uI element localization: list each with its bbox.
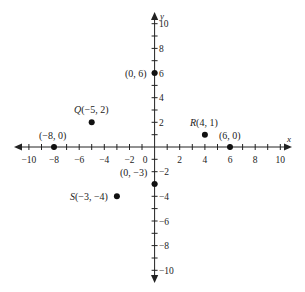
y-axis-down-arrow-icon — [151, 275, 158, 283]
y-tick-label: 4 — [159, 93, 164, 103]
point-label-0-neg3: (0, −3) — [120, 167, 147, 179]
point-neg8-0 — [51, 144, 57, 150]
coordinate-plane: x y −10 −8 — [0, 0, 305, 292]
y-tick-label: 10 — [159, 19, 169, 29]
point-label-q: Q(−5, 2) — [74, 104, 109, 116]
point-label-6-0: (6, 0) — [219, 130, 241, 142]
point-0-neg3 — [152, 181, 158, 187]
x-tick-label: −10 — [21, 155, 36, 165]
x-tick-label: −2 — [124, 155, 134, 165]
point-label-neg8-0: (−8, 0) — [39, 130, 66, 142]
point-labels: (0, 6) Q(−5, 2) R(4, 1) (−8, 0) (6, 0) (… — [39, 68, 241, 203]
point-0-6 — [152, 70, 158, 76]
point-coords-r: (4, 1) — [196, 117, 218, 129]
x-tick-label: −4 — [99, 155, 109, 165]
point-letter-r: R — [189, 117, 196, 128]
x-tick-label: −6 — [74, 155, 84, 165]
y-tick-label: −6 — [159, 217, 169, 227]
x-tick-label: 2 — [177, 155, 182, 165]
x-tick-labels: −10 −8 −6 −4 −2 0 2 4 6 8 10 — [21, 155, 285, 165]
x-tick-label: 10 — [276, 155, 286, 165]
point-label-r: R(4, 1) — [189, 117, 218, 129]
point-q — [89, 119, 95, 125]
y-tick-label: −8 — [159, 241, 169, 251]
point-label-s: S(−3, −4) — [70, 191, 108, 203]
x-axis-label: x — [286, 134, 291, 144]
x-tick-label: 6 — [228, 155, 233, 165]
data-points — [51, 70, 233, 199]
origin-label: 0 — [143, 155, 148, 165]
y-tick-label: 8 — [159, 44, 164, 54]
y-axis-up-arrow-icon — [151, 12, 158, 20]
point-coords-q: (−5, 2) — [81, 104, 108, 116]
x-axis — [20, 144, 288, 150]
point-s — [114, 193, 120, 199]
y-tick-label: 6 — [159, 69, 164, 79]
x-axis-left-arrow-icon — [14, 144, 22, 151]
x-tick-label: 4 — [203, 155, 208, 165]
y-tick-label: −2 — [159, 167, 169, 177]
point-6-0 — [227, 144, 233, 150]
y-tick-label: 2 — [159, 118, 164, 128]
y-tick-label: −4 — [159, 192, 169, 202]
point-label-0-6: (0, 6) — [125, 68, 147, 80]
x-axis-right-arrow-icon — [284, 144, 292, 151]
y-tick-label: −10 — [159, 266, 174, 276]
point-coords-s: (−3, −4) — [75, 191, 108, 203]
x-tick-label: −8 — [49, 155, 59, 165]
x-tick-label: 8 — [253, 155, 258, 165]
point-r — [202, 132, 208, 138]
